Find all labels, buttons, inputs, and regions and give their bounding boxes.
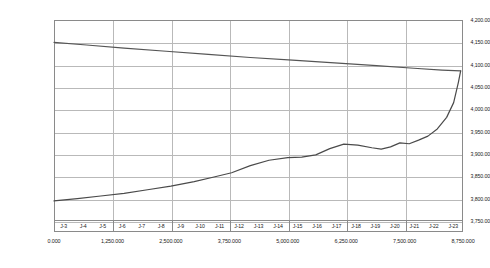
category-axis-separator [289, 221, 290, 231]
x-axis-category-label: J-15 [293, 223, 303, 230]
x-axis-category-label: J-22 [429, 223, 439, 230]
x-axis-category-label: J-8 [158, 223, 165, 230]
chart-container: 4,200.004,150.004,100.004,050.004,000.00… [0, 0, 490, 268]
y-axis-tick-label: 3,850.00 [442, 173, 490, 179]
y-axis-tick-label: 3,800.00 [442, 196, 490, 202]
x-axis-category-label: J-13 [254, 223, 264, 230]
x-axis-category-label: J-19 [371, 223, 381, 230]
x-axis-tick-label: 5,000.000 [276, 238, 299, 245]
y-axis-tick-label: 3,950.00 [442, 129, 490, 135]
y-axis-tick-label: 4,000.00 [442, 106, 490, 112]
x-axis-category-label: J-11 [215, 223, 224, 230]
category-axis-separator [406, 221, 407, 231]
x-axis-category-label: J-14 [273, 223, 283, 230]
x-axis-tick-label: 6,250.000 [335, 238, 358, 245]
x-axis-category-label: J-3 [60, 223, 67, 230]
y-axis-tick-label: 3,900.00 [442, 151, 490, 157]
y-axis-tick-label: 4,200.00 [442, 17, 490, 23]
category-axis-separator [230, 221, 231, 231]
x-axis-category-label: J-4 [80, 223, 87, 230]
x-axis-category-label: J-6 [119, 223, 126, 230]
x-axis-tick-label: 3,750.000 [218, 238, 241, 245]
x-axis-category-label: J-17 [332, 223, 342, 230]
x-axis-tick-label: 2,500.000 [159, 238, 182, 245]
series-line [54, 42, 461, 71]
series-lines [54, 20, 463, 221]
x-axis-category-label: J-21 [410, 223, 420, 230]
x-axis-category-label: J-9 [177, 223, 184, 230]
category-axis-separator [347, 221, 348, 231]
y-axis-tick-label: 4,100.00 [442, 62, 490, 68]
y-axis-tick-label: 4,050.00 [442, 84, 490, 90]
x-axis-category-label: J-18 [351, 223, 361, 230]
category-axis-separator [113, 221, 114, 231]
x-axis-tick-label: 1,250.000 [101, 238, 124, 245]
x-axis-category-label: J-20 [390, 223, 400, 230]
x-axis-tick-label: 7,500.000 [393, 238, 416, 245]
x-axis-category-label: J-23 [449, 223, 459, 230]
y-axis [0, 0, 52, 268]
x-axis-tick-label: 8,750.000 [451, 238, 474, 245]
y-axis-tick-label: 4,150.00 [442, 39, 490, 45]
x-axis-category-label: J-10 [195, 223, 205, 230]
x-axis-category-label: J-5 [99, 223, 106, 230]
x-axis-category-label: J-12 [234, 223, 244, 230]
x-axis-category-label: J-16 [312, 223, 322, 230]
x-axis-category-label: J-7 [138, 223, 145, 230]
category-axis-separator [172, 221, 173, 231]
x-axis-tick-label: 0.000 [48, 238, 61, 245]
series-line [54, 71, 461, 201]
